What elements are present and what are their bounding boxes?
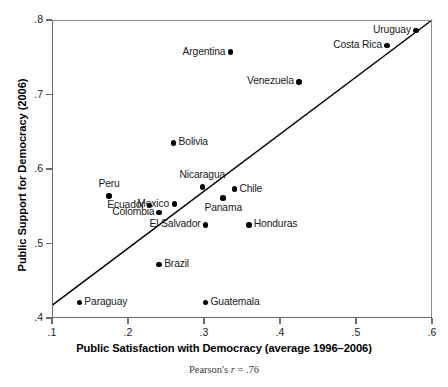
data-point-label: Uruguay [373,24,411,35]
x-tick-mark [203,318,204,324]
data-point-label: Nicaragua [179,169,225,180]
y-tick-label: .7 [34,88,43,100]
y-tick-label: .8 [34,13,43,25]
y-axis-title: Public Support for Democracy (2006) [16,25,28,325]
data-point [228,49,233,54]
x-tick-label: .5 [347,326,365,338]
data-point [413,28,418,33]
data-point [232,186,237,191]
scatter-plot-figure: .8.7.6.5.4 .1.2.3.4.5.6 UruguayCosta Ric… [0,0,448,387]
x-tick-mark [355,318,356,324]
data-point [200,184,205,189]
plot-area [52,20,432,318]
y-tick-mark [46,19,52,20]
data-point [220,195,225,200]
data-point [156,262,161,267]
data-point [77,300,82,305]
data-point-label: Panama [205,202,242,213]
y-tick-mark [46,243,52,244]
x-tick-label: .3 [195,326,213,338]
data-point-label: Brazil [164,258,189,269]
data-point-label: Peru [99,178,120,189]
data-point-label: Bolivia [179,136,208,147]
data-point-label: Costa Rica [333,39,382,50]
data-point [106,193,111,198]
x-tick-label: .6 [423,326,441,338]
x-tick-mark [51,318,52,324]
x-tick-label: .2 [119,326,137,338]
x-tick-mark [279,318,280,324]
y-tick-mark [46,168,52,169]
data-point [172,201,177,206]
x-axis-title: Public Satisfaction with Democracy (aver… [0,342,448,354]
data-point-label: Honduras [254,218,297,229]
y-tick-label: .6 [34,162,43,174]
data-point-label: Argentina [183,46,226,57]
data-point-label: Guatemala [211,296,260,307]
y-tick-label: .5 [34,237,43,249]
data-point [203,222,208,227]
x-tick-mark [431,318,432,324]
x-tick-mark [127,318,128,324]
data-point [296,79,301,84]
data-point [156,210,161,215]
x-tick-label: .4 [271,326,289,338]
data-point-label: Chile [239,183,262,194]
data-point-label: Venezuela [247,75,294,86]
data-point [384,43,389,48]
data-point [171,140,176,145]
data-point-label: Colombia [112,206,154,217]
caption-suffix: = .76 [235,364,259,375]
data-point-label: Paraguay [84,296,127,307]
chart-caption: Pearson's r = .76 [0,364,448,375]
data-point-label: El Salvador [150,218,201,229]
caption-prefix: Pearson's [189,364,231,375]
data-point [246,222,251,227]
x-tick-label: .1 [43,326,61,338]
y-tick-mark [46,94,52,95]
y-tick-label: .4 [34,311,43,323]
